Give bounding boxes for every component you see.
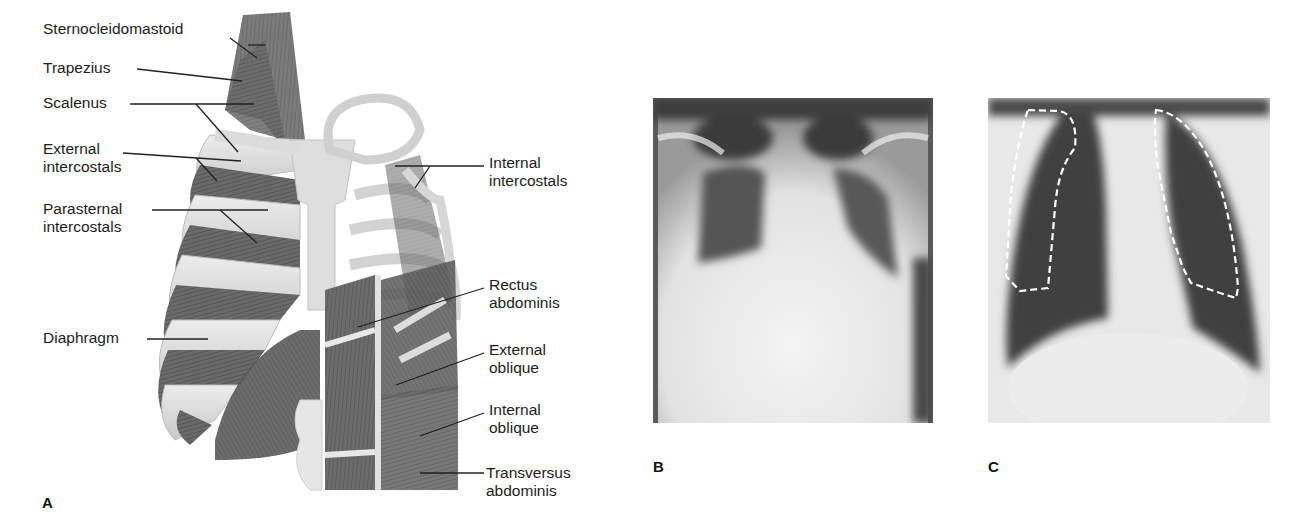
label-internal-oblique: Internal oblique [489, 401, 541, 437]
panel-c-xray [988, 98, 1270, 423]
panel-letter-a: A [42, 494, 53, 511]
label-scalenus: Scalenus [43, 94, 107, 112]
label-trapezius: Trapezius [43, 59, 110, 77]
label-external-oblique: External oblique [489, 341, 546, 377]
label-transversus-abdominis: Transversus abdominis [486, 464, 571, 500]
label-parasternal-intercostals: Parasternal intercostals [43, 200, 122, 236]
label-diaphragm: Diaphragm [43, 329, 119, 347]
panel-b-xray [653, 98, 933, 423]
label-internal-intercostals: Internal intercostals [489, 154, 567, 190]
panel-letter-b: B [653, 458, 664, 475]
label-sternocleidomastoid: Sternocleidomastoid [43, 20, 183, 38]
respiratory-muscles-illustration [0, 0, 640, 528]
label-external-intercostals: External intercostals [43, 140, 121, 176]
panel-letter-c: C [988, 458, 999, 475]
chest-xray-c [988, 98, 1270, 423]
label-rectus-abdominis: Rectus abdominis [489, 276, 560, 312]
abdominal-wall [325, 260, 458, 490]
chest-xray-b [653, 98, 933, 423]
